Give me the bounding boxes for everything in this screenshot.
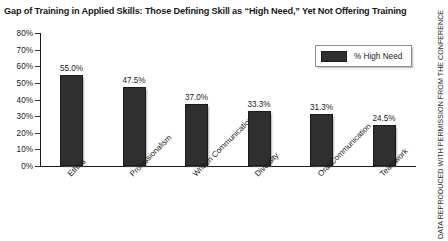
bar-value-label: 47.5%: [122, 76, 145, 85]
y-axis-tick-mark: [35, 116, 40, 117]
bar-ethics[interactable]: [60, 75, 83, 166]
y-axis-tick-mark: [35, 50, 40, 51]
y-axis-tick-mark: [35, 33, 40, 34]
bar-value-label: 33.3%: [247, 100, 270, 109]
y-axis-tick-mark: [35, 166, 40, 167]
bars-layer: 55.0%Ethics47.5%Professionalism37.0%Writ…: [0, 0, 448, 241]
chart-legend: % High Need: [315, 45, 412, 67]
bar-value-label: 31.3%: [310, 103, 333, 112]
bar-value-label: 24.5%: [372, 114, 395, 123]
legend-swatch-high-need: [321, 51, 347, 62]
y-axis-tick-mark: [35, 133, 40, 134]
credit-note-text: DATA REPRODUCED WITH PERMISSION FROM THE…: [437, 10, 444, 239]
bar-professionalism[interactable]: [123, 87, 146, 166]
y-axis-tick-mark: [35, 83, 40, 84]
y-axis-tick-mark: [35, 149, 40, 150]
credit-note: DATA REPRODUCED WITH PERMISSION FROM THE…: [434, 0, 448, 241]
y-axis-tick-mark: [35, 100, 40, 101]
y-axis-tick-mark: [35, 66, 40, 67]
legend-label-high-need: % High Need: [354, 52, 402, 61]
bar-value-label: 37.0%: [185, 93, 208, 102]
bar-value-label: 55.0%: [60, 64, 83, 73]
